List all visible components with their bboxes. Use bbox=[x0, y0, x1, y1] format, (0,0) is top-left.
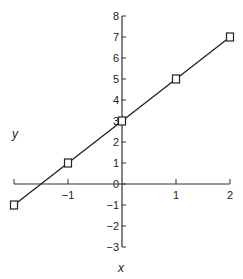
y-tick-label: 6 bbox=[113, 52, 119, 64]
y-tick-label: −2 bbox=[106, 220, 119, 232]
x-tick-label: 2 bbox=[227, 189, 233, 201]
y-tick-label: 4 bbox=[113, 94, 119, 106]
axes bbox=[14, 16, 230, 247]
y-tick-label: 7 bbox=[113, 31, 119, 43]
tick-marks: −112−3−2−1012345678 bbox=[14, 10, 233, 253]
data-point-marker bbox=[65, 159, 72, 167]
y-axis-label: y bbox=[11, 127, 19, 141]
data-point-marker bbox=[119, 117, 126, 125]
data-point-marker bbox=[227, 33, 234, 41]
y-tick-label: 8 bbox=[113, 10, 119, 22]
y-tick-label: 0 bbox=[113, 178, 119, 190]
y-tick-label: 2 bbox=[113, 136, 119, 148]
y-tick-label: −3 bbox=[106, 241, 119, 253]
y-tick-label: 1 bbox=[113, 157, 119, 169]
data-point-marker bbox=[173, 75, 180, 83]
line-chart: −112−3−2−1012345678 x y bbox=[0, 0, 243, 279]
y-tick-label: −1 bbox=[106, 199, 119, 211]
x-axis-label: x bbox=[117, 261, 125, 275]
y-tick-label: 5 bbox=[113, 73, 119, 85]
x-tick-label: −1 bbox=[62, 189, 75, 201]
x-tick-label: 1 bbox=[173, 189, 179, 201]
data-point-marker bbox=[11, 201, 18, 209]
